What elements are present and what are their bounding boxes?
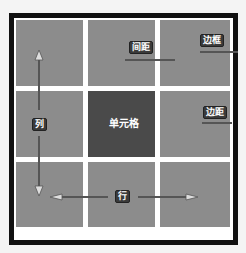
row-label: 行 xyxy=(115,190,130,203)
cell-r1-c3 xyxy=(160,20,230,86)
column-arrow-up-icon xyxy=(34,50,44,110)
cell-r2-c3 xyxy=(160,91,230,157)
cell-r1-c1 xyxy=(16,20,83,86)
padding-label: 边距 xyxy=(203,106,227,119)
cell-label: 单元格 xyxy=(107,118,141,129)
border-label: 边框 xyxy=(200,34,224,47)
spacing-label: 间距 xyxy=(129,41,153,54)
row-arrow-right-icon xyxy=(138,192,198,202)
column-arrow-down-icon xyxy=(34,136,44,196)
border-pointer-line xyxy=(200,51,238,53)
column-label: 列 xyxy=(32,118,47,131)
spacing-pointer-line xyxy=(125,59,175,61)
padding-pointer-line xyxy=(202,122,232,124)
row-arrow-left-icon xyxy=(50,192,110,202)
cell-r2-c1 xyxy=(16,91,83,157)
